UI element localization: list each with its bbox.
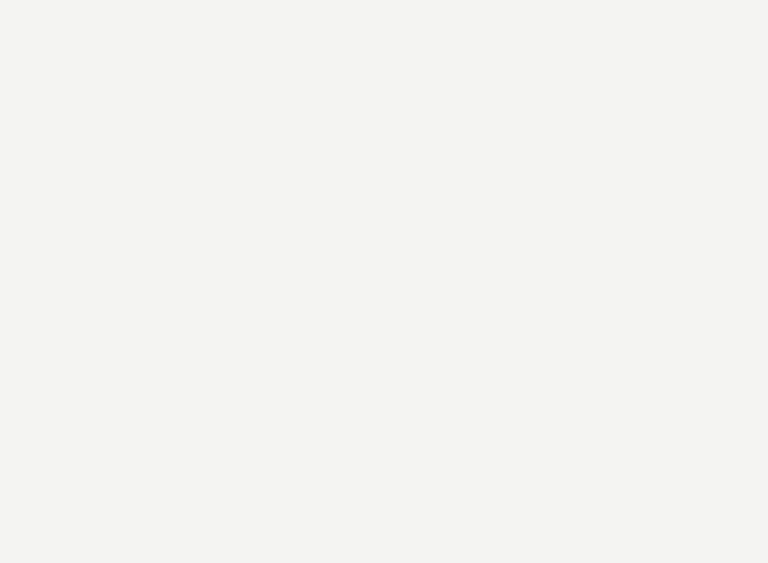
colorbar — [661, 31, 684, 491]
confusion-matrix-heatmap — [77, 31, 598, 491]
